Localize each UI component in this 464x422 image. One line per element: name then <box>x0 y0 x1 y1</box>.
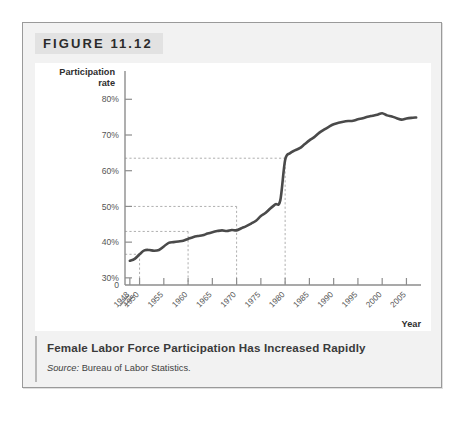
y-axis-zero-label: 0 <box>114 280 119 290</box>
figure-card: FIGURE 11.12 Participationrate30%40%50%6… <box>22 22 442 388</box>
figure-number-banner: FIGURE 11.12 <box>35 33 163 54</box>
x-axis-tick-label: 1965 <box>195 290 215 310</box>
data-series-line <box>130 113 416 261</box>
source-text: Bureau of Labor Statistics. <box>82 363 191 373</box>
chart-plot-panel: Participationrate30%40%50%60%70%80%01948… <box>35 63 431 331</box>
x-axis-tick-label: 1985 <box>292 290 312 310</box>
x-axis-tick-label: 1960 <box>170 290 190 310</box>
source-prefix: Source: <box>47 363 79 373</box>
x-axis-tick-label: 1975 <box>243 290 263 310</box>
screenshot-page: FIGURE 11.12 Participationrate30%40%50%6… <box>0 0 464 422</box>
caption-block: Female Labor Force Participation Has Inc… <box>35 336 431 382</box>
x-axis-tick-label: 2005 <box>389 290 409 310</box>
y-axis-tick-label: 50% <box>102 202 120 212</box>
y-axis-title-line2: rate <box>98 78 115 88</box>
y-axis-tick-label: 80% <box>102 94 120 104</box>
x-axis-tick-label: 2000 <box>364 290 384 310</box>
x-axis-tick-label: 1990 <box>316 290 336 310</box>
figure-caption: Female Labor Force Participation Has Inc… <box>47 341 366 354</box>
figure-source: Source: Bureau of Labor Statistics. <box>47 363 191 373</box>
x-axis-tick-label: 1980 <box>267 290 287 310</box>
x-axis-tick-label: 1955 <box>146 290 166 310</box>
chart-svg: Participationrate30%40%50%60%70%80%01948… <box>35 63 431 331</box>
y-axis-tick-label: 70% <box>102 130 120 140</box>
x-axis-title: Year <box>402 319 422 329</box>
y-axis-tick-label: 40% <box>102 237 120 247</box>
y-axis-title-line1: Participation <box>59 67 115 77</box>
x-axis-tick-label: 1970 <box>219 290 239 310</box>
y-axis-tick-label: 60% <box>102 166 120 176</box>
x-axis-tick-label: 1995 <box>340 290 360 310</box>
